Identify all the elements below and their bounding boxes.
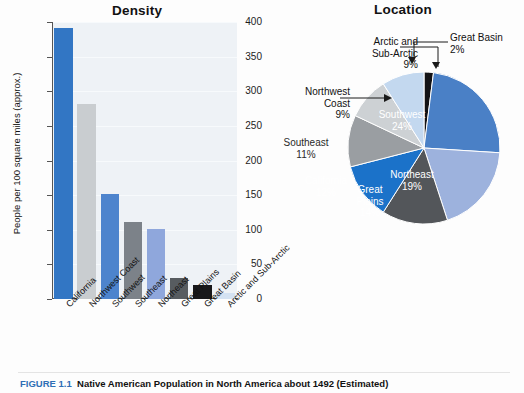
location-pie-chart: Arctic and Sub-Arctic 9% Northwest Coast… — [262, 14, 524, 359]
y-tick-mark — [47, 161, 52, 162]
y-tick-label: 350 — [218, 51, 262, 62]
y-tick-mark — [47, 91, 52, 92]
y-tick-label: 250 — [218, 120, 262, 131]
y-tick-mark — [47, 264, 52, 265]
pie-slice-group — [348, 72, 500, 224]
bar-series-container — [52, 22, 237, 299]
bar-california — [54, 28, 73, 299]
y-tick-mark — [47, 299, 52, 300]
greatbasin-leader-line — [414, 42, 448, 62]
figure-page: 050100150200250300350400 CaliforniaNorth… — [0, 0, 524, 393]
figure-caption-text: Native American Population in North Amer… — [77, 378, 388, 389]
y-tick-mark — [47, 195, 52, 196]
bar-y-axis-title: People per 100 square miles (approx.) — [11, 54, 22, 254]
figure-caption: FIGURE 1.1 Native American Population in… — [20, 378, 510, 389]
pie-slice-southwest — [424, 73, 500, 153]
density-bar-chart: 050100150200250300350400 CaliforniaNorth… — [0, 18, 262, 363]
density-panel-title: Density — [112, 3, 162, 18]
y-tick-mark — [47, 230, 52, 231]
y-tick-mark — [47, 22, 52, 23]
y-tick-label: 300 — [218, 85, 262, 96]
callout-arctic-and-sub-arctic: Arctic and Sub-Arctic 9% — [336, 36, 418, 71]
y-tick-label: 200 — [218, 155, 262, 166]
y-tick-label: 50 — [218, 258, 262, 269]
y-tick-mark — [47, 57, 52, 58]
callout-northwest-coast: Northwest Coast 9% — [268, 86, 350, 121]
caption-divider — [18, 372, 510, 373]
y-tick-label: 400 — [218, 16, 262, 27]
figure-caption-number: FIGURE 1.1 — [20, 378, 72, 389]
callout-great-basin: Great Basin 2% — [450, 32, 524, 55]
bar-northwest-coast — [77, 104, 96, 299]
arctic-arrowhead — [432, 62, 440, 69]
y-tick-label: 100 — [218, 224, 262, 235]
y-tick-mark — [47, 126, 52, 127]
location-panel-title: Location — [374, 2, 432, 17]
y-tick-label: 150 — [218, 189, 262, 200]
